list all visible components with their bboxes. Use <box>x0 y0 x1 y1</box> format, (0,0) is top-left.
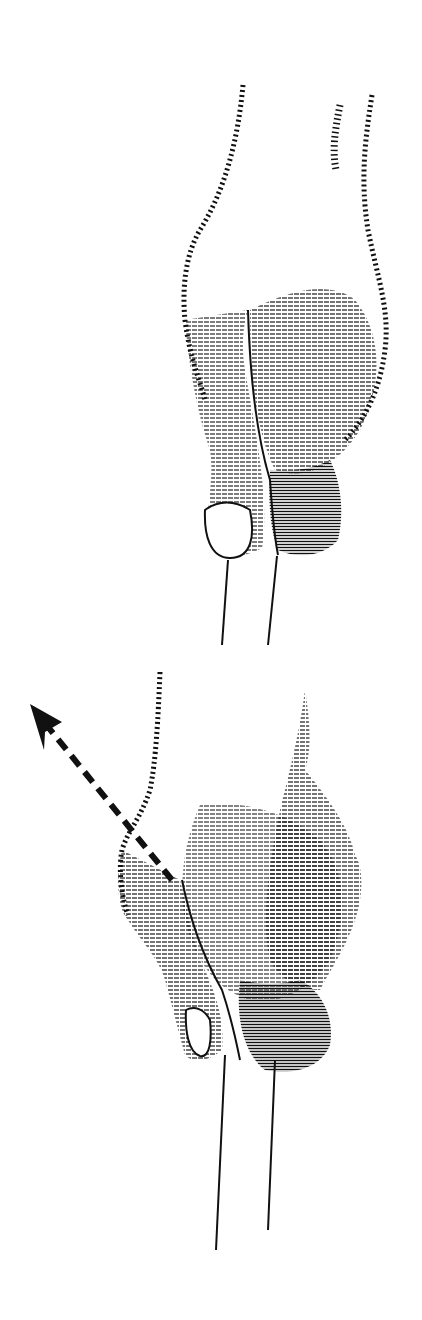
illustration-hand-top <box>0 0 422 660</box>
drumstick-left <box>222 560 228 645</box>
hand-drawing-bottom <box>0 660 422 1320</box>
illustration-hand-bottom <box>0 660 422 1320</box>
drumstick-right <box>268 556 277 645</box>
drumstick-right <box>268 1060 275 1230</box>
drumstick-left <box>216 1055 225 1250</box>
hand-drawing-top <box>0 0 422 660</box>
